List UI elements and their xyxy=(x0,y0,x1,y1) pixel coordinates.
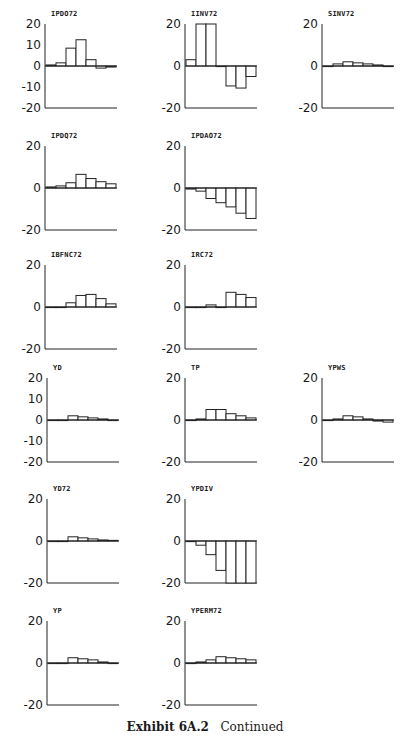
bar-plot xyxy=(155,611,275,731)
chart-panel-ipdo72: IPDO7220100-10-20 xyxy=(15,14,135,134)
bar xyxy=(226,188,236,207)
chart-panel-ypws: YPWS200-20 xyxy=(292,368,410,488)
bar xyxy=(206,188,216,199)
bar-plot xyxy=(292,368,410,488)
bar xyxy=(216,657,226,663)
bar xyxy=(226,658,236,663)
bar xyxy=(86,179,96,188)
bar xyxy=(343,62,353,66)
bar xyxy=(66,48,76,66)
chart-panel-yd: YD20100-10-20 xyxy=(17,368,137,488)
chart-panel-sinv72: SINV72200-20 xyxy=(292,14,410,134)
bar xyxy=(226,541,236,583)
bar xyxy=(236,541,246,583)
bar xyxy=(206,24,216,66)
chart-panel-ipdao72: IPDAO72200-20 xyxy=(155,136,275,256)
bar xyxy=(68,537,78,541)
bar-plot xyxy=(155,255,275,375)
bar xyxy=(216,188,226,203)
figure-caption: Exhibit 6A.2 Continued xyxy=(0,720,410,734)
bar xyxy=(226,66,236,86)
bar xyxy=(236,416,246,420)
bar xyxy=(66,183,76,188)
chart-panel-ipdq72: IPDQ72200-20 xyxy=(15,136,135,256)
chart-panel-yp: YP200-20 xyxy=(17,611,137,731)
chart-panel-irc72: IRC72200-20 xyxy=(155,255,275,375)
bar xyxy=(96,182,106,188)
bar xyxy=(86,60,96,66)
bar xyxy=(66,303,76,307)
bar xyxy=(246,66,256,77)
chart-panel-ypdiv: YPDIV200-20 xyxy=(155,489,275,609)
chart-panel-ibfnc72: IBFNC72200-20 xyxy=(15,255,135,375)
bar-plot xyxy=(17,489,137,609)
bar xyxy=(86,294,96,307)
bar xyxy=(246,188,256,218)
bar xyxy=(236,294,246,307)
bar-plot xyxy=(155,136,275,256)
bar xyxy=(216,410,226,421)
bar xyxy=(226,414,236,420)
bar xyxy=(76,295,86,307)
bar xyxy=(206,410,216,421)
bar xyxy=(236,188,246,213)
bar xyxy=(106,184,116,188)
caption-text: Continued xyxy=(220,720,283,734)
bar-plot xyxy=(155,14,275,134)
bar-plot xyxy=(17,368,137,488)
bar xyxy=(206,541,216,555)
bar-plot xyxy=(15,14,135,134)
bar-plot xyxy=(155,489,275,609)
bar xyxy=(246,298,256,307)
bar xyxy=(226,292,236,307)
bar xyxy=(196,24,206,66)
bar xyxy=(236,659,246,663)
bar-plot xyxy=(15,255,135,375)
chart-panel-yd72: YD72200-20 xyxy=(17,489,137,609)
bar xyxy=(216,541,226,570)
bar xyxy=(78,659,88,663)
bar xyxy=(196,541,206,545)
chart-panel-tp: TP200-20 xyxy=(155,368,275,488)
bar-plot xyxy=(15,136,135,256)
bar xyxy=(96,299,106,307)
bar-plot xyxy=(17,611,137,731)
bar xyxy=(76,40,86,66)
caption-label: Exhibit 6A.2 xyxy=(127,720,209,734)
bar xyxy=(236,66,246,88)
bar-plot xyxy=(292,14,410,134)
bar xyxy=(68,658,78,663)
chart-panel-yperm72: YPERM72200-20 xyxy=(155,611,275,731)
bar xyxy=(186,60,196,66)
bar xyxy=(246,541,256,583)
chart-panel-iinv72: IINV72200-20 xyxy=(155,14,275,134)
bar-plot xyxy=(155,368,275,488)
bar xyxy=(343,416,353,420)
bar xyxy=(76,174,86,188)
bar xyxy=(68,416,78,420)
